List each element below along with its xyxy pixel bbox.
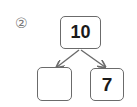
left-arrow-icon bbox=[57, 50, 79, 67]
known-part-box: 7 bbox=[90, 68, 124, 101]
right-arrow-icon bbox=[81, 50, 105, 67]
missing-part-box[interactable] bbox=[37, 67, 72, 101]
whole-number-box: 10 bbox=[60, 16, 101, 49]
